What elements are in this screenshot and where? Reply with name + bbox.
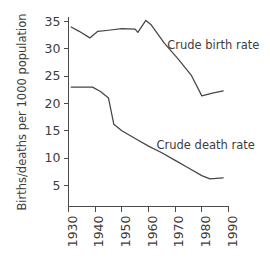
y-tick-label: 15 xyxy=(45,123,61,138)
line-chart: Births/deaths per 1000 population 510152… xyxy=(0,0,270,260)
x-tick-label: 1940 xyxy=(91,215,106,247)
x-tick-label: 1960 xyxy=(145,215,160,247)
x-tick-label: 1970 xyxy=(171,215,186,247)
x-tick-label: 1930 xyxy=(65,215,80,247)
series-label-crude-death-rate: Crude death rate xyxy=(157,138,255,152)
series-line-crude-death-rate xyxy=(71,87,223,179)
y-axis-title-label: Births/deaths per 1000 population xyxy=(15,13,29,210)
series-label-crude-birth-rate: Crude birth rate xyxy=(167,38,259,52)
y-tick-label: 25 xyxy=(45,68,61,83)
x-tick-label: 1990 xyxy=(225,215,240,247)
y-tick-label: 35 xyxy=(45,14,61,29)
series-line-crude-birth-rate xyxy=(71,20,223,95)
y-tick-label: 20 xyxy=(45,96,61,111)
y-tick-label: 10 xyxy=(45,150,61,165)
y-tick-label: 5 xyxy=(53,178,61,193)
x-axis-ticks: 1930194019501960197019801990 xyxy=(65,207,240,248)
y-tick-label: 30 xyxy=(45,41,61,56)
x-tick-label: 1980 xyxy=(198,215,213,247)
y-axis-ticks: 5101520253035 xyxy=(45,14,69,193)
y-axis-title: Births/deaths per 1000 population xyxy=(15,13,29,210)
chart-container: Births/deaths per 1000 population 510152… xyxy=(0,0,270,260)
x-tick-label: 1950 xyxy=(118,215,133,247)
